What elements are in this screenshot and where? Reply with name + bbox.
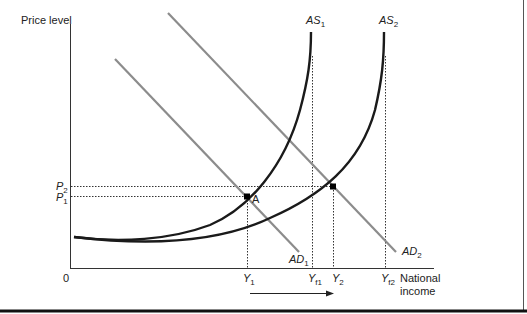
- y2-label-sub: 2: [339, 278, 343, 287]
- ad2-label-text: AD: [402, 245, 417, 257]
- ad1-label: AD1: [289, 253, 309, 270]
- equilibrium-point-2: [330, 184, 336, 190]
- as1-label-text: AS: [306, 14, 321, 26]
- as1-label: AS1: [306, 14, 325, 31]
- p1-label-sub: 1: [63, 197, 67, 206]
- ad1-curve: [115, 59, 299, 252]
- y1-label: Y1: [243, 272, 255, 289]
- as1-label-sub: 1: [321, 20, 325, 29]
- yf2-label-sub: f2: [388, 278, 395, 287]
- x-axis-label-line2: income: [400, 285, 435, 297]
- y1-label-sub: 1: [250, 278, 254, 287]
- point-a-label: A: [252, 193, 259, 205]
- equilibrium-point-a: [244, 194, 250, 200]
- shift-arrow-head: [326, 291, 334, 297]
- y-axis-label: Price level: [21, 14, 72, 26]
- y2-label: Y2: [332, 272, 344, 289]
- as2-label-sub: 2: [394, 20, 398, 29]
- ad1-label-text: AD: [289, 253, 304, 265]
- x-axis-label-line1: National: [400, 272, 440, 284]
- yf2-label: Yf2: [381, 272, 395, 289]
- yf1-label-sub: f1: [315, 278, 322, 287]
- ad-as-diagram: [0, 0, 527, 314]
- origin-label: 0: [63, 272, 69, 284]
- ad1-label-sub: 1: [304, 259, 308, 268]
- as2-label-text: AS: [379, 14, 394, 26]
- ad2-label: AD2: [402, 245, 422, 262]
- p1-label: P1: [56, 191, 68, 208]
- ad2-label-sub: 2: [417, 251, 421, 260]
- yf1-label: Yf1: [308, 272, 322, 289]
- ad2-curve: [168, 13, 396, 252]
- as1-curve: [74, 32, 311, 240]
- as2-label: AS2: [379, 14, 398, 31]
